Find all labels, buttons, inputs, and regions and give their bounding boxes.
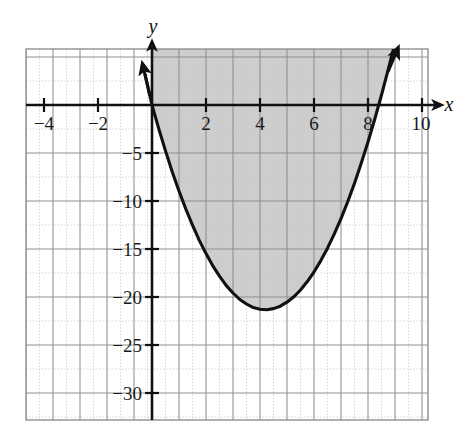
y-tick-label: −20 [112, 287, 142, 308]
x-tick-label: 4 [255, 113, 265, 134]
y-tick-label: −5 [122, 143, 142, 164]
graph-figure: −4 −2 2 4 6 8 10 −5 −10 −15 −20 −25 −30 … [0, 0, 469, 433]
coordinate-plane: −4 −2 2 4 6 8 10 −5 −10 −15 −20 −25 −30 … [0, 0, 469, 433]
y-axis-label: y [147, 15, 158, 38]
x-tick-label: −4 [34, 113, 55, 134]
x-tick-label: −2 [88, 113, 108, 134]
y-tick-label: −15 [112, 239, 142, 260]
x-tick-label: 6 [309, 113, 319, 134]
x-tick-label: 10 [412, 113, 431, 134]
x-tick-label: 2 [201, 113, 211, 134]
y-tick-label: −30 [112, 383, 142, 404]
y-tick-label: −10 [112, 191, 142, 212]
y-tick-label: −25 [112, 335, 142, 356]
x-axis-label: x [444, 93, 454, 115]
